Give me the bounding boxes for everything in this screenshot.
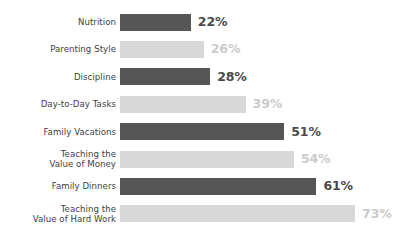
bar-value-label: 73%	[362, 208, 392, 221]
bar-row: Teaching the Value of Money54%	[0, 146, 407, 173]
bar-track: 61%	[116, 173, 407, 200]
bar-track: 28%	[116, 63, 407, 90]
bar-category-label: Family Dinners	[0, 181, 116, 191]
bar-chart: Nutrition22%Parenting Style26%Discipline…	[0, 0, 407, 228]
bar-category-label: Nutrition	[0, 17, 116, 27]
bar-category-label: Family Vacations	[0, 127, 116, 137]
bar-rect	[120, 96, 246, 113]
bar-row: Parenting Style26%	[0, 36, 407, 63]
bar-row: Discipline28%	[0, 63, 407, 90]
bar-category-label: Teaching the Value of Hard Work	[0, 204, 116, 224]
bar-category-label: Parenting Style	[0, 44, 116, 54]
bar-rect	[120, 151, 294, 168]
bar-track: 73%	[116, 200, 407, 227]
bar-value-label: 54%	[301, 153, 331, 166]
bar-rect	[120, 178, 316, 195]
bar-track: 51%	[116, 118, 407, 145]
bar-row: Teaching the Value of Hard Work73%	[0, 200, 407, 227]
bar-row: Family Vacations51%	[0, 118, 407, 145]
bar-track: 54%	[116, 146, 407, 173]
bar-rect	[120, 68, 210, 85]
bar-track: 39%	[116, 91, 407, 118]
bar-row: Family Dinners61%	[0, 173, 407, 200]
bar-rect	[120, 205, 355, 222]
bar-value-label: 28%	[217, 71, 247, 84]
bar-row: Day-to-Day Tasks39%	[0, 91, 407, 118]
bar-track: 22%	[116, 9, 407, 36]
bar-row: Nutrition22%	[0, 9, 407, 36]
bar-rect	[120, 14, 191, 31]
bar-value-label: 26%	[211, 43, 241, 56]
bar-chart-rows: Nutrition22%Parenting Style26%Discipline…	[0, 0, 407, 228]
bar-value-label: 39%	[253, 98, 283, 111]
bar-rect	[120, 123, 284, 140]
bar-category-label: Discipline	[0, 72, 116, 82]
bar-rect	[120, 41, 204, 58]
bar-value-label: 22%	[198, 16, 228, 29]
bar-category-label: Teaching the Value of Money	[0, 149, 116, 169]
bar-value-label: 61%	[323, 180, 353, 193]
bar-track: 26%	[116, 36, 407, 63]
bar-category-label: Day-to-Day Tasks	[0, 99, 116, 109]
bar-value-label: 51%	[291, 126, 321, 139]
